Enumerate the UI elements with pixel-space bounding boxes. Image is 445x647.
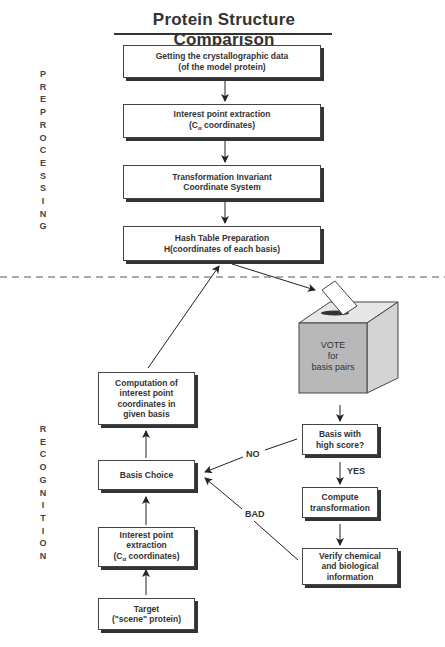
- step-basis-high-score: Basis with high score?: [302, 424, 378, 455]
- step-interest-point-extraction: Interest point extraction(Cα coordinates…: [123, 104, 321, 138]
- ballot-box-icon: [299, 281, 398, 393]
- edge-label-yes: YES: [347, 466, 365, 476]
- step-basis-choice: Basis Choice: [98, 460, 195, 490]
- step-label-line1: Interest point extraction: [174, 109, 271, 119]
- vote-label: VOTE for basis pairs: [299, 340, 367, 373]
- step-verify-information: Verify chemical and biological informati…: [302, 548, 398, 585]
- edge-label-bad: BAD: [245, 509, 265, 519]
- step-target-interest-point-extraction: Interest point extraction(Cα coordinates…: [98, 527, 195, 567]
- step-transformation-invariant: Transformation Invariant Coordinate Syst…: [123, 165, 321, 199]
- step-target-protein: Target ("scene" protein): [98, 598, 195, 630]
- step-computation-coordinates: Computation of interest point coordinate…: [98, 372, 195, 425]
- edge-label-no: NO: [246, 449, 260, 459]
- step-compute-transformation: Compute transformation: [302, 487, 378, 518]
- step-get-crystallographic-data: Getting the crystallographic data (of th…: [123, 45, 321, 78]
- step-hash-table-preparation: Hash Table Preparation H(coordinates of …: [123, 226, 321, 261]
